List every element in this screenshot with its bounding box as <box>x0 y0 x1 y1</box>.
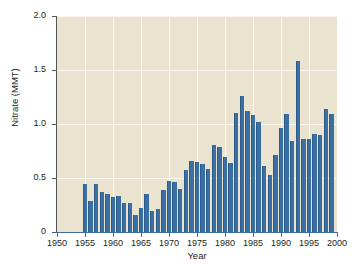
x-tick-mark-1950 <box>57 233 58 237</box>
bar-1977 <box>206 169 211 232</box>
bar-1980 <box>223 157 228 232</box>
bar-1987 <box>262 166 267 232</box>
x-tick-mark-1990 <box>281 233 282 237</box>
nitrate-bar-chart: 00.51.01.52.0 19501955196019651970197519… <box>0 0 358 264</box>
x-tick-label-2000: 2000 <box>317 238 357 248</box>
bar-1962 <box>122 203 127 232</box>
bar-1963 <box>128 203 133 232</box>
bar-1960 <box>111 197 116 232</box>
bar-1956 <box>88 201 93 232</box>
x-tick-mark-1985 <box>253 233 254 237</box>
bar-1984 <box>245 111 250 232</box>
x-tick-mark-1965 <box>141 233 142 237</box>
bar-1988 <box>268 175 273 232</box>
bar-1955 <box>83 184 88 232</box>
bar-1959 <box>105 194 110 232</box>
bar-1978 <box>212 145 217 232</box>
bar-series <box>57 16 337 232</box>
y-tick-mark-1.5 <box>52 70 56 71</box>
x-axis-title: Year <box>57 250 337 261</box>
bar-1989 <box>273 155 278 232</box>
bar-1968 <box>156 209 161 232</box>
plot-area <box>57 16 337 232</box>
y-axis-line <box>56 16 57 233</box>
x-tick-mark-1995 <box>309 233 310 237</box>
bar-1957 <box>94 184 99 232</box>
y-tick-label-1.5: 1.5 <box>0 65 46 74</box>
bar-1976 <box>200 164 205 232</box>
bar-1958 <box>100 192 105 232</box>
x-tick-mark-2000 <box>337 233 338 237</box>
bar-1981 <box>228 163 233 232</box>
y-tick-mark-2 <box>52 16 56 17</box>
bar-1983 <box>240 96 245 232</box>
bar-1966 <box>144 194 149 232</box>
bar-1986 <box>256 122 261 232</box>
bar-1971 <box>172 182 177 232</box>
bar-1975 <box>195 162 200 232</box>
y-axis-title: Nitrate (MMT) <box>9 38 20 158</box>
bar-1997 <box>318 135 323 232</box>
bar-1972 <box>178 189 183 232</box>
bar-1996 <box>312 134 317 232</box>
bar-1999 <box>329 114 334 232</box>
x-tick-mark-1980 <box>225 233 226 237</box>
y-tick-label-0.5: 0.5 <box>0 173 46 182</box>
bar-1982 <box>234 113 239 232</box>
bar-1974 <box>189 161 194 232</box>
bar-1992 <box>290 141 295 232</box>
bar-1994 <box>301 139 306 232</box>
bar-1973 <box>184 170 189 232</box>
x-tick-mark-1975 <box>197 233 198 237</box>
y-tick-mark-1 <box>52 124 56 125</box>
bar-1969 <box>161 190 166 232</box>
bar-1979 <box>217 147 222 232</box>
bar-1964 <box>133 215 138 232</box>
y-tick-label-0: 0 <box>0 227 46 236</box>
x-tick-mark-1955 <box>85 233 86 237</box>
y-tick-label-1: 1.0 <box>0 119 46 128</box>
y-tick-mark-0 <box>52 232 56 233</box>
bar-1985 <box>251 115 256 232</box>
bar-1993 <box>296 61 301 232</box>
bar-1991 <box>284 114 289 232</box>
bar-1995 <box>307 139 312 232</box>
bar-1998 <box>324 109 329 232</box>
bar-1990 <box>279 128 284 232</box>
x-tick-mark-1970 <box>169 233 170 237</box>
bar-1965 <box>139 208 144 232</box>
x-tick-mark-1960 <box>113 233 114 237</box>
bar-1961 <box>116 196 121 232</box>
y-tick-label-2: 2.0 <box>0 11 46 20</box>
bar-1970 <box>167 181 172 232</box>
y-tick-mark-0.5 <box>52 178 56 179</box>
bar-1967 <box>150 211 155 232</box>
